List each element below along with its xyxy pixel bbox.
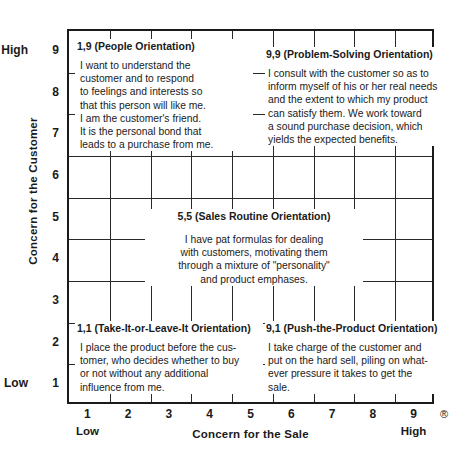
quadrant-1-9-line-1: I want to understand the [80, 59, 253, 72]
quadrant-9-9-line-4: can satisfy them. We work toward [268, 107, 437, 120]
x-tick-8: 8 [358, 408, 388, 421]
x-axis-low-label: Low [65, 425, 109, 438]
quadrant-1-1-line-2: tomer, who decides whether to buy [80, 354, 263, 367]
quadrant-1-9-line-4: that this person will like me. [80, 99, 253, 112]
sales-grid-chart: Concern for the Customer Concern for the… [0, 0, 464, 454]
y-tick-9: 9 [43, 44, 59, 56]
quadrant-5-5-sales-routine-orientation: 5,5 (Sales Routine Orientation) I have p… [145, 209, 363, 286]
y-axis-extreme-labels: High Low [0, 29, 28, 404]
quadrant-9-9-line-5: a sound purchase decision, which [268, 120, 437, 133]
plot-area: 1,9 (People Orientation) I want to under… [67, 29, 434, 404]
registered-trademark-icon: ® [440, 408, 448, 421]
quadrant-9-9-line-2: inform myself of his or her real needs [268, 80, 437, 93]
quadrant-1-1-take-it-or-leave-it-orientation: 1,1 (Take-It-or-Leave-It Orientation) I … [75, 321, 263, 394]
quadrant-1-1-line-1: I place the product before the cus- [80, 341, 263, 354]
y-tick-7: 7 [43, 127, 59, 139]
y-tick-1: 1 [43, 377, 59, 389]
quadrant-9-9-line-3: and the extent to which my product [268, 93, 437, 106]
x-tick-5: 5 [236, 408, 266, 421]
x-tick-1: 1 [72, 408, 102, 421]
y-tick-5: 5 [43, 211, 59, 223]
quadrant-9-9-line-6: yields the expected benefits. [268, 133, 437, 146]
quadrant-5-5-title: 5,5 (Sales Routine Orientation) [145, 209, 363, 223]
x-axis-tick-labels: 1 2 3 4 5 6 7 8 9 [67, 408, 434, 424]
x-tick-3: 3 [154, 408, 184, 421]
quadrant-1-9-line-3: to feelings and interests so [80, 85, 253, 98]
quadrant-1-1-line-3: or not without any additional [80, 367, 263, 380]
x-axis-high-label: High [392, 425, 436, 438]
y-tick-3: 3 [43, 294, 59, 306]
quadrant-9-1-line-1: I take charge of the customer and [268, 341, 441, 354]
quadrant-1-1-title: 1,1 (Take-It-or-Leave-It Orientation) [75, 321, 263, 335]
y-tick-6: 6 [43, 169, 59, 181]
quadrant-1-9-line-7: leads to a purchase from me. [80, 138, 253, 151]
quadrant-5-5-line-1: I have pat formulas for dealing [145, 233, 363, 246]
quadrant-9-1-line-3: ever pressure it takes to get the [268, 367, 441, 380]
y-tick-2: 2 [43, 336, 59, 348]
quadrant-5-5-line-2: with customers, motivating them [145, 246, 363, 259]
quadrant-9-9-title: 9,9 (Problem-Solving Orientation) [265, 47, 437, 61]
x-tick-6: 6 [276, 408, 306, 421]
x-tick-4: 4 [195, 408, 225, 421]
quadrant-1-9-body: I want to understand the customer and to… [75, 59, 253, 151]
quadrant-9-1-body: I take charge of the customer and put on… [265, 341, 441, 394]
quadrant-1-9-line-2: customer and to respond [80, 72, 253, 85]
quadrant-9-9-body: I consult with the customer so as to inf… [265, 67, 437, 146]
quadrant-1-9-line-5: I am the customer's friend. [80, 112, 253, 125]
x-tick-9: 9 [399, 408, 429, 421]
quadrant-1-9-title: 1,9 (People Orientation) [75, 39, 253, 53]
y-axis-low-label: Low [0, 377, 28, 389]
y-tick-8: 8 [43, 86, 59, 98]
quadrant-1-9-line-6: It is the personal bond that [80, 125, 253, 138]
x-tick-2: 2 [113, 408, 143, 421]
y-axis-tick-labels: 9 8 7 6 5 4 3 2 1 [29, 29, 59, 404]
quadrant-1-9-people-orientation: 1,9 (People Orientation) I want to under… [75, 39, 253, 151]
x-axis-extreme-labels: Low High [67, 425, 434, 441]
gridline-h-5p5 [69, 198, 432, 199]
y-axis-high-label: High [0, 44, 28, 56]
quadrant-5-5-body: I have pat formulas for dealing with cus… [145, 229, 363, 286]
quadrant-5-5-line-4: and product emphases. [145, 273, 363, 286]
quadrant-9-1-line-2: put on the hard sell, piling on what- [268, 354, 441, 367]
quadrant-9-9-problem-solving-orientation: 9,9 (Problem-Solving Orientation) I cons… [265, 47, 437, 146]
gridline-h-6p5 [69, 156, 432, 157]
quadrant-9-9-line-1: I consult with the customer so as to [268, 67, 437, 80]
x-tick-7: 7 [317, 408, 347, 421]
quadrant-1-1-line-4: influence from me. [80, 381, 263, 394]
quadrant-1-1-body: I place the product before the cus- tome… [75, 341, 263, 394]
quadrant-9-1-push-the-product-orientation: 9,1 (Push-the-Product Orientation) I tak… [265, 321, 441, 394]
quadrant-9-1-line-4: sale. [268, 381, 441, 394]
y-tick-4: 4 [43, 252, 59, 264]
quadrant-9-1-title: 9,1 (Push-the-Product Orientation) [265, 321, 441, 335]
quadrant-5-5-line-3: through a mixture of "personality" [145, 259, 363, 272]
